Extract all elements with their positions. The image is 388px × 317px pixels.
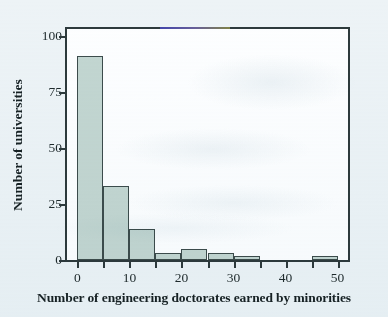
x-axis-tick-label: 50	[331, 271, 345, 285]
y-axis-title: Number of universities	[9, 27, 27, 262]
x-axis-tick-label: 20	[175, 271, 189, 285]
plot-area	[67, 29, 348, 260]
x-axis-tick	[234, 260, 236, 268]
plot-frame: 025507510001020304050	[65, 27, 350, 262]
x-axis-tick	[286, 260, 288, 268]
histogram-bar	[312, 256, 338, 260]
histogram-bar	[77, 56, 103, 260]
x-axis-tick	[208, 260, 210, 268]
x-axis-tick	[260, 260, 262, 268]
y-axis-tick	[59, 92, 67, 94]
histogram-bar	[103, 186, 129, 260]
y-axis-tick	[59, 260, 67, 262]
y-axis-title-text: Number of universities	[10, 79, 26, 211]
x-axis-tick	[181, 260, 183, 268]
x-axis-title: Number of engineering doctorates earned …	[0, 290, 388, 306]
histogram-bar	[129, 229, 155, 260]
scan-artifact-fleck	[160, 27, 230, 29]
x-axis-tick	[77, 260, 79, 268]
histogram-bar	[208, 253, 234, 260]
x-axis-tick	[312, 260, 314, 268]
y-axis-tick	[59, 36, 67, 38]
x-axis-tick	[103, 260, 105, 268]
histogram-bar	[181, 249, 207, 260]
x-axis-tick	[338, 260, 340, 268]
x-axis-tick-label: 10	[123, 271, 137, 285]
x-axis-tick-label: 0	[74, 271, 81, 285]
x-axis-tick-label: 30	[227, 271, 241, 285]
histogram-bar	[155, 253, 181, 260]
x-axis-tick	[129, 260, 131, 268]
histogram-bar	[234, 256, 260, 260]
x-axis-tick	[155, 260, 157, 268]
y-axis-tick	[59, 204, 67, 206]
x-axis-tick-label: 40	[279, 271, 293, 285]
histogram-figure: Number of universities 02550751000102030…	[0, 0, 388, 317]
y-axis-tick	[59, 148, 67, 150]
